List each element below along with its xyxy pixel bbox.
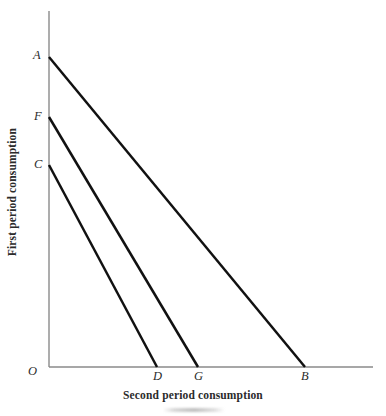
- point-label-g: G: [194, 370, 203, 383]
- point-label-o: O: [28, 365, 37, 378]
- point-label-a: A: [33, 49, 41, 62]
- x-axis-title: Second period consumption: [0, 389, 386, 401]
- point-label-d: D: [153, 370, 162, 383]
- point-label-c: C: [34, 158, 42, 171]
- budget-constraint-figure: A F C O D G B First period consumption S…: [0, 0, 386, 416]
- point-label-f: F: [34, 110, 42, 123]
- y-axis-title: First period consumption: [6, 128, 18, 256]
- plot-area: [0, 0, 386, 416]
- budget-line-cd: [49, 165, 157, 367]
- budget-line-fg: [49, 117, 198, 367]
- budget-line-ab: [49, 57, 305, 367]
- figure-caption-cutoff: [163, 408, 225, 412]
- point-label-b: B: [301, 370, 309, 383]
